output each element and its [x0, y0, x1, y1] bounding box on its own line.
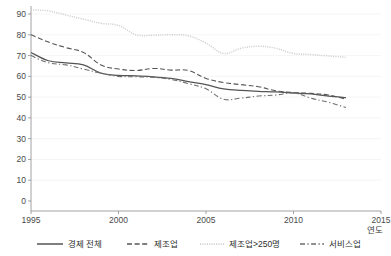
- y-tick-label-40: 40: [17, 113, 27, 123]
- x-tick-label-2015: 2015: [372, 215, 391, 225]
- data-series: [31, 10, 346, 108]
- legend-label-1[interactable]: 제조업: [154, 239, 178, 249]
- y-tick-label-80: 80: [17, 30, 27, 40]
- y-tick-label-50: 50: [17, 92, 27, 102]
- y-tick-labels: 0102030405060708090: [17, 9, 27, 206]
- legend-label-3[interactable]: 서비스업: [329, 239, 361, 249]
- y-tick-label-70: 70: [17, 51, 27, 61]
- x-axis: [31, 201, 381, 214]
- series-line-1: [31, 35, 346, 99]
- x-tick-labels: 19952000200520102015: [22, 215, 391, 225]
- line-chart: 0102030405060708090 19952000200520102015…: [0, 0, 391, 256]
- chart-legend: 경제 전체제조업제조업>250명서비스업: [37, 239, 361, 249]
- y-tick-label-20: 20: [17, 154, 27, 164]
- chart-figure: 0102030405060708090 19952000200520102015…: [0, 0, 391, 256]
- legend-label-2[interactable]: 제조업>250명: [229, 239, 280, 249]
- x-tick-label-1995: 1995: [22, 215, 41, 225]
- x-axis-title: 연도: [367, 225, 383, 235]
- y-tick-label-30: 30: [17, 134, 27, 144]
- x-tick-label-2000: 2000: [109, 215, 128, 225]
- series-line-0: [31, 52, 346, 97]
- gridlines: [31, 14, 381, 180]
- y-tick-label-0: 0: [21, 196, 26, 206]
- y-axis: [28, 6, 31, 201]
- x-tick-label-2010: 2010: [284, 215, 303, 225]
- y-tick-label-60: 60: [17, 71, 27, 81]
- y-tick-label-10: 10: [17, 175, 27, 185]
- x-tick-label-2005: 2005: [197, 215, 216, 225]
- y-tick-label-90: 90: [17, 9, 27, 19]
- legend-label-0[interactable]: 경제 전체: [68, 239, 102, 249]
